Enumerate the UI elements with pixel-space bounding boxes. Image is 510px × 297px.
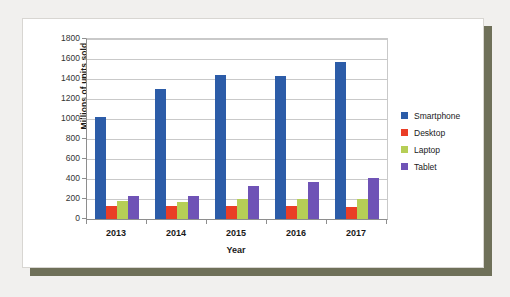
x-axis-title: Year <box>86 245 386 255</box>
bar-group <box>87 39 147 219</box>
bar-laptop <box>297 199 308 219</box>
legend-swatch-icon <box>401 129 408 136</box>
x-axis-tick-label: 2015 <box>211 228 261 238</box>
bar-group <box>147 39 207 219</box>
bar-tablet <box>368 178 379 219</box>
x-axis-tick-label: 2014 <box>151 228 201 238</box>
bar-desktop <box>226 206 237 219</box>
legend-swatch-icon <box>401 112 408 119</box>
legend-label: Tablet <box>414 162 437 172</box>
legend-item-smartphone[interactable]: Smartphone <box>401 107 460 124</box>
legend-label: Laptop <box>414 145 440 155</box>
bar-laptop <box>357 199 368 219</box>
y-axis-tick-label: 400 <box>46 173 80 183</box>
bar-group <box>327 39 387 219</box>
x-axis-tick-mark <box>266 219 267 224</box>
x-axis-tick-mark <box>146 219 147 224</box>
bar-group <box>207 39 267 219</box>
bar-group <box>267 39 327 219</box>
legend-item-laptop[interactable]: Laptop <box>401 141 460 158</box>
y-axis-tick-label: 800 <box>46 133 80 143</box>
y-axis-tick-label: 0 <box>46 213 80 223</box>
x-axis-tick-mark <box>326 219 327 224</box>
y-axis-tick-label: 1400 <box>46 73 80 83</box>
legend-item-tablet[interactable]: Tablet <box>401 158 460 175</box>
bar-smartphone <box>335 62 346 219</box>
bar-laptop <box>117 201 128 220</box>
bar-desktop <box>166 206 177 219</box>
bar-smartphone <box>95 117 106 219</box>
bar-chart: Millions of units sold 02004006008001000… <box>23 19 485 269</box>
x-axis-tick-label: 2017 <box>331 228 381 238</box>
chart-legend: SmartphoneDesktopLaptopTablet <box>401 107 460 175</box>
bar-desktop <box>346 207 357 219</box>
plot-area <box>86 38 388 220</box>
chart-card: Millions of units sold 02004006008001000… <box>22 18 484 268</box>
bar-smartphone <box>215 75 226 219</box>
y-axis-tick-label: 200 <box>46 193 80 203</box>
bar-smartphone <box>155 89 166 219</box>
y-axis-tick-label: 600 <box>46 153 80 163</box>
legend-swatch-icon <box>401 146 408 153</box>
x-axis-tick-mark <box>386 219 387 224</box>
legend-swatch-icon <box>401 163 408 170</box>
bar-smartphone <box>275 76 286 219</box>
bar-laptop <box>177 202 188 220</box>
x-axis-tick-label: 2016 <box>271 228 321 238</box>
x-axis-tick-mark <box>206 219 207 224</box>
legend-item-desktop[interactable]: Desktop <box>401 124 460 141</box>
y-axis-tick-label: 1800 <box>46 33 80 43</box>
bar-tablet <box>128 196 139 220</box>
bar-tablet <box>188 196 199 219</box>
bar-laptop <box>237 199 248 219</box>
x-axis-tick-label: 2013 <box>91 228 141 238</box>
bar-desktop <box>106 206 117 220</box>
bar-tablet <box>308 182 319 219</box>
legend-label: Smartphone <box>414 111 460 121</box>
bar-desktop <box>286 206 297 219</box>
y-axis-tick-label: 1600 <box>46 53 80 63</box>
x-axis-tick-mark <box>86 219 87 224</box>
bar-tablet <box>248 186 259 219</box>
y-axis-tick-label: 1000 <box>46 113 80 123</box>
legend-label: Desktop <box>414 128 445 138</box>
y-axis-tick-label: 1200 <box>46 93 80 103</box>
